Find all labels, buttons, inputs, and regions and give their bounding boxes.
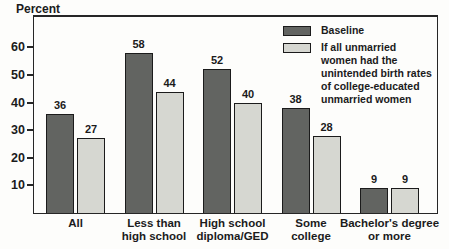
legend-item-scenario: If all unmarried women had the unintende… <box>283 41 433 106</box>
y-axis-tick-label: 40 <box>2 96 25 110</box>
bar-baseline <box>125 53 153 213</box>
y-axis-tick-label: 30 <box>2 123 25 137</box>
y-axis-tick-label: 10 <box>2 178 25 192</box>
bar-slot: 28 <box>313 136 341 213</box>
legend-label-scenario: If all unmarried women had the unintende… <box>321 41 433 106</box>
x-axis-category-label: High schooldiploma/GED <box>196 217 268 242</box>
x-axis-category-line: high school <box>122 230 187 243</box>
bar-slot: 36 <box>46 114 74 213</box>
x-axis-category-line: High school <box>196 217 268 230</box>
bar-group: 3828Somecollege <box>282 108 341 213</box>
x-axis-category-line: Bachelor's degree <box>340 217 439 230</box>
bar-slot: 40 <box>234 103 262 213</box>
bar-value-label: 27 <box>71 123 111 135</box>
x-axis-category-label: Somecollege <box>291 217 331 242</box>
y-axis-tick <box>27 129 33 131</box>
bar-group: 3627All <box>46 114 105 213</box>
x-axis-category-label: Bachelor's degreeor more <box>340 217 439 242</box>
bar-group: 5844Less thanhigh school <box>125 53 184 213</box>
bar-slot: 38 <box>282 108 310 213</box>
bar-scenario <box>391 188 419 213</box>
y-axis-title: Percent <box>16 2 60 16</box>
bar-value-label: 52 <box>197 54 237 66</box>
y-axis-tick <box>27 184 33 186</box>
bar-value-label: 28 <box>307 121 347 133</box>
bar-scenario <box>234 103 262 213</box>
bar-value-label: 36 <box>40 99 80 111</box>
x-axis-category-line: college <box>291 230 331 243</box>
x-axis-category-line: All <box>68 217 83 230</box>
bar-slot: 9 <box>391 188 419 213</box>
legend-item-baseline: Baseline <box>283 24 433 37</box>
legend-swatch-scenario <box>283 43 311 53</box>
y-axis-tick <box>27 102 33 104</box>
bar-slot: 27 <box>77 138 105 213</box>
bar-group: 99Bachelor's degreeor more <box>360 188 419 213</box>
y-axis-tick <box>27 46 33 48</box>
bar-slot: 9 <box>360 188 388 213</box>
bar-slot: 44 <box>156 92 184 213</box>
y-axis-tick <box>27 74 33 76</box>
x-axis-category-line: Less than <box>122 217 187 230</box>
x-axis-category-label: Less thanhigh school <box>122 217 187 242</box>
x-axis-category-label: All <box>68 217 83 230</box>
x-axis-category-line: diploma/GED <box>196 230 268 243</box>
y-axis-tick <box>27 157 33 159</box>
bar-baseline <box>360 188 388 213</box>
legend-label-baseline: Baseline <box>321 24 364 37</box>
bar-value-label: 44 <box>150 77 190 89</box>
bar-baseline <box>46 114 74 213</box>
bar-group: 5240High schooldiploma/GED <box>203 69 262 213</box>
bar-baseline <box>203 69 231 213</box>
bar-value-label: 9 <box>385 173 425 185</box>
y-axis-tick-label: 50 <box>2 68 25 82</box>
bar-slot: 58 <box>125 53 153 213</box>
legend: Baseline If all unmarried women had the … <box>283 24 433 110</box>
x-axis-category-line: or more <box>340 230 439 243</box>
y-axis-tick-label: 20 <box>2 151 25 165</box>
bar-chart: Percent 3627All5844Less thanhigh school5… <box>0 0 449 249</box>
bar-scenario <box>313 136 341 213</box>
y-axis-tick-label: 60 <box>2 40 25 54</box>
bar-scenario <box>156 92 184 213</box>
bar-value-label: 58 <box>119 38 159 50</box>
legend-swatch-baseline <box>283 26 311 36</box>
bar-scenario <box>77 138 105 213</box>
x-axis-category-line: Some <box>291 217 331 230</box>
bar-slot: 52 <box>203 69 231 213</box>
bar-baseline <box>282 108 310 213</box>
bar-value-label: 40 <box>228 88 268 100</box>
